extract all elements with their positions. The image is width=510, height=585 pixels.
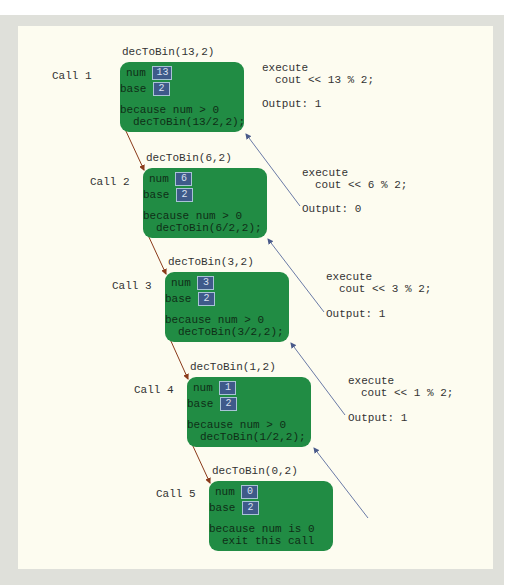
num-value: 6 xyxy=(175,172,192,186)
call-label: Call 3 xyxy=(112,280,152,293)
execute-statement: cout << 6 % 2; xyxy=(315,179,407,192)
output-text: Output: 0 xyxy=(302,203,361,216)
num-label: num xyxy=(193,382,213,394)
call-label: Call 4 xyxy=(134,384,174,397)
invocation-label: decToBin(0,2) xyxy=(212,465,298,478)
call-arrow-4-5 xyxy=(192,444,210,483)
num-label: num xyxy=(171,277,191,289)
num-value: 0 xyxy=(241,485,258,499)
call-frame-box: num 6 base 2 because num > 0 decToBin(6/… xyxy=(143,168,267,238)
output-text: Output: 1 xyxy=(262,98,321,111)
exit-line: exit this call xyxy=(222,535,314,548)
base-value: 2 xyxy=(153,82,170,96)
call-arrow-1-2 xyxy=(125,129,144,170)
invocation-label: decToBin(1,2) xyxy=(190,361,276,374)
output-text: Output: 1 xyxy=(326,308,385,321)
execute-statement: cout << 1 % 2; xyxy=(361,387,453,400)
base-value: 2 xyxy=(242,501,259,515)
num-label: num xyxy=(215,486,235,498)
call-frame-box: num 1 base 2 because num > 0 decToBin(1/… xyxy=(187,377,311,447)
base-value: 2 xyxy=(176,188,193,202)
num-value: 3 xyxy=(197,276,214,290)
num-label: num xyxy=(126,67,146,79)
execute-statement: cout << 13 % 2; xyxy=(275,74,374,87)
invocation-label: decToBin(13,2) xyxy=(122,46,214,59)
call-label: Call 1 xyxy=(52,70,92,83)
num-value: 1 xyxy=(219,381,236,395)
recursive-call-line: decToBin(6/2,2); xyxy=(156,222,262,235)
call-frame-box: num 3 base 2 because num > 0 decToBin(3/… xyxy=(165,272,289,342)
execute-statement: cout << 3 % 2; xyxy=(339,283,431,296)
base-label: base xyxy=(187,398,213,410)
num-value: 13 xyxy=(152,66,172,80)
output-text: Output: 1 xyxy=(348,412,407,425)
call-frame-box: num 13 base 2 because num > 0 decToBin(1… xyxy=(120,62,244,132)
recursive-call-line: decToBin(13/2,2); xyxy=(133,116,245,129)
base-label: base xyxy=(209,502,235,514)
base-value: 2 xyxy=(220,397,237,411)
base-label: base xyxy=(120,83,146,95)
base-label: base xyxy=(143,189,169,201)
call-label: Call 5 xyxy=(156,488,196,501)
base-value: 2 xyxy=(198,292,215,306)
num-label: num xyxy=(149,173,169,185)
call-label: Call 2 xyxy=(90,176,130,189)
call-arrow-2-3 xyxy=(148,235,166,274)
recursive-call-line: decToBin(1/2,2); xyxy=(200,431,306,444)
invocation-label: decToBin(6,2) xyxy=(146,152,232,165)
base-label: base xyxy=(165,293,191,305)
call-arrow-3-4 xyxy=(170,339,188,379)
call-frame-box: num 0 base 2 because num is 0 exit this … xyxy=(209,481,333,551)
invocation-label: decToBin(3,2) xyxy=(168,256,254,269)
recursive-call-line: decToBin(3/2,2); xyxy=(178,326,284,339)
